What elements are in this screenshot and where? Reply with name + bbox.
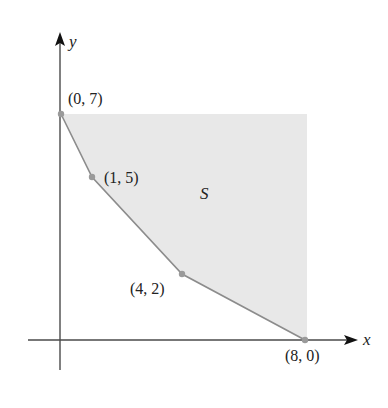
- point-label-0-7: (0, 7): [68, 90, 103, 108]
- point-label-4-2: (4, 2): [130, 280, 165, 298]
- point-label-8-0: (8, 0): [285, 347, 320, 365]
- region-s-label: S: [200, 184, 209, 203]
- y-axis-label: y: [67, 32, 77, 51]
- vertex-4-2: [179, 271, 185, 277]
- vertex-1-5: [89, 174, 95, 180]
- vertex-0-7: [58, 111, 64, 117]
- feasible-region-figure: y x (0, 7) (1, 5) (4, 2) (8, 0) S: [0, 0, 388, 408]
- x-axis-label: x: [362, 330, 371, 349]
- vertex-8-0: [302, 337, 308, 343]
- point-label-1-5: (1, 5): [104, 169, 139, 187]
- region-s-shading: [61, 114, 307, 340]
